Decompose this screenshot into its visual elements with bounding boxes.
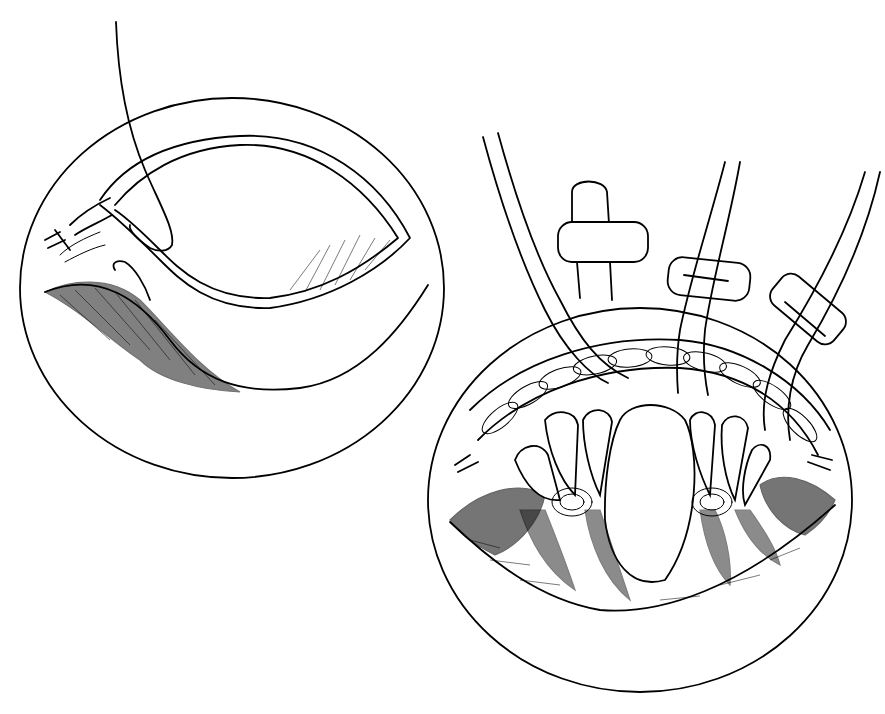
right-panel-illustration	[0, 0, 885, 714]
illustration-stage	[0, 0, 885, 714]
bolster-pads	[558, 182, 851, 350]
